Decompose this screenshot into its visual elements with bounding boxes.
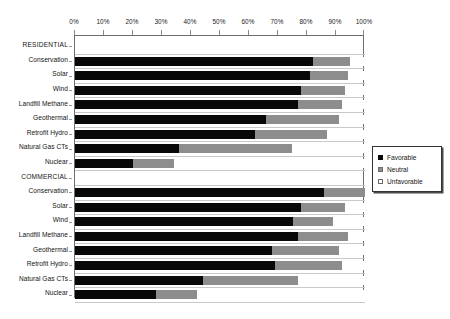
legend-item[interactable]: Unfavorable: [378, 175, 437, 187]
bar-segment-favorable: [75, 57, 313, 66]
stacked-bar: [75, 71, 365, 80]
bar-segment-unfavorable: [350, 57, 365, 66]
category-label: Conservation: [29, 187, 68, 194]
row-separator: [75, 302, 365, 303]
stacked-bar: [75, 159, 365, 168]
stacked-bar: [75, 290, 365, 299]
x-axis-tick-label: 100%: [356, 18, 373, 25]
stacked-bar: [75, 130, 365, 139]
category-label: Solar: [52, 70, 68, 77]
category-tick: [69, 163, 72, 164]
bar-segment-unfavorable: [348, 71, 365, 80]
bar-segment-unfavorable: [333, 217, 365, 226]
stacked-bar: [75, 144, 365, 153]
bar-segment-neutral: [179, 144, 292, 153]
category-label: Nuclear: [45, 289, 68, 296]
legend-swatch-icon: [378, 155, 383, 160]
x-axis-tick-label: 20%: [125, 18, 138, 25]
bar-segment-favorable: [75, 144, 179, 153]
chart-legend: FavorableNeutralUnfavorable: [372, 146, 442, 192]
stacked-bar: [75, 261, 365, 270]
category-tick: [69, 280, 72, 281]
bar-segment-favorable: [75, 290, 156, 299]
stacked-bar: [75, 232, 365, 241]
category-tick: [69, 265, 72, 266]
x-axis-tick-label: 60%: [241, 18, 254, 25]
category-tick: [69, 46, 72, 47]
bar-segment-favorable: [75, 130, 255, 139]
bar-segment-neutral: [301, 203, 345, 212]
legend-label: Neutral: [387, 166, 408, 173]
category-label: Retrofit Hydro: [27, 260, 68, 267]
bar-segment-unfavorable: [348, 232, 365, 241]
category-tick: [69, 149, 72, 150]
bar-segment-favorable: [75, 86, 301, 95]
category-tick: [69, 178, 72, 179]
x-axis-tick-label: 90%: [328, 18, 341, 25]
row-separator: [75, 258, 365, 259]
x-axis-tick-label: 50%: [212, 18, 225, 25]
bar-segment-neutral: [324, 188, 365, 197]
bar-segment-unfavorable: [174, 159, 365, 168]
stacked-bar: [75, 100, 365, 109]
category-label: Landfill Methane: [19, 100, 68, 107]
bar-segment-favorable: [75, 217, 293, 226]
row-separator: [75, 243, 365, 244]
legend-label: Favorable: [387, 154, 416, 161]
bar-segment-neutral: [298, 232, 347, 241]
row-separator: [75, 170, 365, 171]
bar-segment-neutral: [275, 261, 342, 270]
stacked-bar: [75, 115, 365, 124]
bar-segment-favorable: [75, 115, 266, 124]
row-separator: [75, 141, 365, 142]
category-tick: [69, 90, 72, 91]
bar-segment-neutral: [298, 100, 342, 109]
bar-segment-neutral: [203, 276, 299, 285]
bar-segment-favorable: [75, 159, 133, 168]
bar-segment-unfavorable: [292, 144, 365, 153]
legend-item[interactable]: Favorable: [378, 151, 437, 163]
category-label: Solar: [52, 202, 68, 209]
bar-segment-neutral: [272, 246, 339, 255]
bar-segment-favorable: [75, 100, 298, 109]
bar-segment-unfavorable: [327, 130, 365, 139]
stacked-bar: [75, 57, 365, 66]
category-label: Wind: [53, 216, 68, 223]
bar-segment-neutral: [255, 130, 328, 139]
row-separator: [75, 97, 365, 98]
bar-segment-neutral: [313, 57, 351, 66]
row-separator: [75, 214, 365, 215]
category-tick: [69, 207, 72, 208]
category-label: Conservation: [29, 56, 68, 63]
bar-segment-unfavorable: [342, 100, 365, 109]
category-label: Wind: [53, 85, 68, 92]
row-separator: [75, 83, 365, 84]
bar-segment-neutral: [293, 217, 334, 226]
row-separator: [75, 156, 365, 157]
category-label: Landfill Methane: [19, 231, 68, 238]
stacked-bar: [75, 217, 365, 226]
plot-area: [74, 35, 364, 298]
row-separator: [75, 200, 365, 201]
stacked-bar: [75, 86, 365, 95]
y-axis-category-labels: RESIDENTIALConservationSolarWindLandfill…: [0, 35, 72, 298]
group-label-residential: RESIDENTIAL: [23, 41, 68, 48]
category-tick: [69, 222, 72, 223]
category-label: Natural Gas CTs: [19, 143, 68, 150]
bar-segment-neutral: [310, 71, 348, 80]
bar-segment-unfavorable: [345, 203, 365, 212]
x-axis-tick-label: 10%: [96, 18, 109, 25]
bar-segment-favorable: [75, 246, 272, 255]
legend-item[interactable]: Neutral: [378, 163, 437, 175]
bar-segment-favorable: [75, 203, 301, 212]
bar-segment-unfavorable: [339, 246, 365, 255]
group-label-commercial: COMMERCIAL: [21, 173, 68, 180]
row-separator: [75, 127, 365, 128]
category-tick: [69, 105, 72, 106]
legend-swatch-icon: [378, 179, 383, 184]
bar-segment-unfavorable: [197, 290, 365, 299]
bar-segment-favorable: [75, 71, 310, 80]
x-axis-tick-label: 40%: [183, 18, 196, 25]
x-axis-tick-label: 30%: [154, 18, 167, 25]
bar-segment-favorable: [75, 261, 275, 270]
